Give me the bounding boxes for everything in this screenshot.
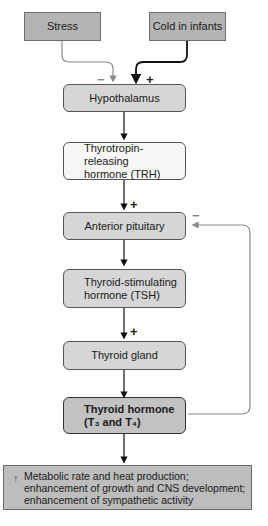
- input-stress: Stress: [24, 12, 101, 41]
- thyroid-hormone-label-line2: (T₃ and T₄): [84, 416, 174, 429]
- input-cold-in-infants: Cold in infants: [149, 12, 226, 41]
- effects-box: ↑ Metabolic rate and heat production; en…: [3, 465, 252, 510]
- trh-stimulatory-sign: +: [130, 198, 138, 211]
- effects-line2: enhancement of growth and CNS developmen…: [24, 482, 245, 494]
- node-anterior-pituitary: Anterior pituitary: [63, 212, 186, 240]
- trh-label-line2: hormone (TRH): [84, 168, 185, 181]
- node-trh: Thyrotropin-releasing hormone (TRH): [63, 142, 186, 180]
- thyroid-hormone-label-line1: Thyroid hormone: [84, 403, 174, 416]
- thyroid-gland-label: Thyroid gland: [91, 349, 158, 362]
- tsh-label-line2: hormone (TSH): [84, 289, 177, 302]
- node-thyroid-gland: Thyroid gland: [63, 341, 186, 370]
- hypothalamus-label: Hypothalamus: [89, 92, 159, 105]
- anterior-pituitary-label: Anterior pituitary: [84, 220, 164, 233]
- effects-line1: Metabolic rate and heat production;: [24, 470, 245, 482]
- trh-label-line1: Thyrotropin-releasing: [84, 142, 185, 168]
- effects-line3: enhancement of sympathetic activity: [24, 494, 245, 506]
- input-cold-label: Cold in infants: [153, 20, 223, 33]
- node-tsh: Thyroid-stimulating hormone (TSH): [63, 269, 186, 308]
- node-thyroid-hormone: Thyroid hormone (T₃ and T₄): [63, 397, 186, 434]
- connector-lines: [0, 0, 268, 526]
- node-hypothalamus: Hypothalamus: [63, 84, 186, 112]
- tsh-label-line1: Thyroid-stimulating: [84, 276, 177, 289]
- feedback-inhibitory-sign: −: [192, 209, 200, 222]
- increase-arrow-icon: ↑: [13, 472, 19, 484]
- tsh-stimulatory-sign: +: [130, 325, 138, 338]
- input-stress-label: Stress: [47, 20, 78, 33]
